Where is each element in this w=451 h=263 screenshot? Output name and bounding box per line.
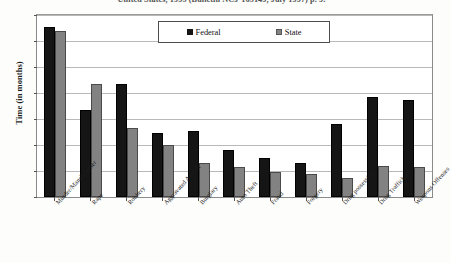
bar-group [109, 15, 145, 197]
bar-state [55, 31, 66, 197]
legend-label: State [285, 28, 302, 37]
bar-group [37, 15, 73, 197]
bar-federal [403, 100, 414, 198]
bar-federal [331, 124, 342, 197]
legend-label: Federal [196, 28, 221, 37]
legend-item: Federal [187, 28, 221, 37]
bar-federal [44, 27, 55, 197]
bar-group [360, 15, 396, 197]
bar-federal [367, 97, 378, 197]
legend-item: State [276, 28, 302, 37]
legend-swatch-icon [276, 29, 282, 35]
y-tick-mark [34, 197, 37, 198]
bar-state [127, 128, 138, 197]
bar-federal [295, 163, 306, 197]
x-axis-labels: Murder/ManslaughterRapeRobberyAggravated… [36, 199, 433, 263]
figure-caption: United States, 1995 (Bulletin NCJ-165149… [0, 0, 443, 4]
chart-legend: FederalState [158, 21, 330, 43]
bar-group [396, 15, 432, 197]
bar-state [91, 84, 102, 197]
bar-federal [116, 84, 127, 197]
bar-federal [223, 150, 234, 197]
chart-plot-area: 020406080100120140 FederalState [36, 14, 433, 198]
legend-swatch-icon [187, 29, 193, 35]
bar-federal [152, 133, 163, 197]
bar-federal [80, 110, 91, 197]
bar-federal [259, 158, 270, 197]
y-axis-label: Time (in months) [14, 18, 24, 168]
